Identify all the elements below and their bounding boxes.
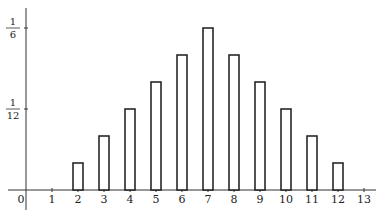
- y-tick-labels: 11216: [6, 16, 20, 121]
- x-tick-label: 11: [305, 193, 319, 206]
- bar-9: [255, 82, 265, 190]
- y-tick-numerator: 1: [10, 97, 16, 108]
- x-tick-label: 1: [49, 193, 56, 206]
- x-tick-label: 2: [75, 193, 82, 206]
- x-tick-label: 6: [179, 193, 186, 206]
- bar-8: [229, 55, 239, 190]
- x-tick-label: 5: [153, 193, 160, 206]
- bar-10: [281, 109, 291, 190]
- x-tick-label: 13: [357, 193, 371, 206]
- y-tick-denominator: 12: [7, 110, 20, 121]
- bar-11: [307, 136, 317, 190]
- x-tick-label: 10: [279, 193, 293, 206]
- x-tick-label: 4: [127, 193, 134, 206]
- bar-4: [125, 109, 135, 190]
- x-tick-label: 9: [257, 193, 264, 206]
- bar-7: [203, 28, 213, 190]
- bar-12: [333, 163, 343, 190]
- x-tick-label: 7: [205, 193, 212, 206]
- probability-bar-chart: 012345678910111213 11216: [0, 0, 381, 216]
- x-tick-label: 0: [18, 193, 25, 206]
- x-tick-labels: 012345678910111213: [18, 193, 372, 206]
- bar-6: [177, 55, 187, 190]
- bar-2: [73, 163, 83, 190]
- bars: [73, 28, 343, 190]
- y-tick-numerator: 1: [10, 16, 16, 27]
- axes: [8, 8, 376, 210]
- x-tick-label: 3: [101, 193, 108, 206]
- bar-3: [99, 136, 109, 190]
- y-tick-denominator: 6: [10, 29, 16, 40]
- x-tick-label: 12: [331, 193, 345, 206]
- x-tick-label: 8: [231, 193, 238, 206]
- bar-5: [151, 82, 161, 190]
